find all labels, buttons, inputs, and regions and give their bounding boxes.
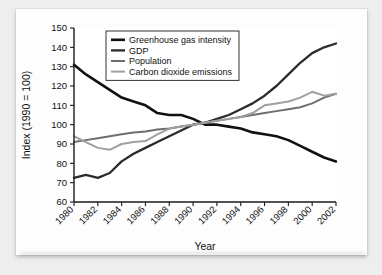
x-tick-label: 2000	[291, 204, 314, 227]
y-tick-label: 120	[51, 80, 67, 91]
y-axis-title: Index (1990 = 100)	[20, 71, 32, 159]
y-tick-label: 90	[56, 138, 67, 149]
y-tick-label: 110	[52, 100, 67, 111]
x-tick-label: 1984	[100, 204, 123, 227]
y-tick-label: 70	[56, 177, 67, 188]
y-axis-ticks: 60708090100110120130140150	[51, 22, 74, 207]
legend-label-3: Carbon dioxide emissions	[129, 67, 233, 77]
x-tick-label: 1996	[243, 204, 266, 227]
x-tick-label: 1988	[148, 204, 171, 227]
x-tick-label: 1990	[172, 204, 195, 227]
chart-legend: Greenhouse gas intensityGDPPopulationCar…	[106, 31, 239, 80]
y-tick-label: 140	[51, 42, 67, 53]
line-chart: 60708090100110120130140150 1980198219841…	[0, 0, 382, 275]
y-tick-label: 80	[56, 158, 67, 169]
x-tick-label: 1994	[219, 204, 242, 227]
x-axis-ticks: 1980198219841986198819901992199419961998…	[53, 202, 338, 226]
x-tick-label: 1998	[267, 204, 290, 227]
legend-label-0: Greenhouse gas intensity	[129, 35, 232, 45]
x-tick-label: 1992	[196, 204, 219, 227]
x-tick-label: 2002	[315, 204, 338, 227]
x-tick-label: 1982	[77, 204, 100, 227]
x-tick-label: 1986	[124, 204, 147, 227]
legend-label-2: Population	[129, 56, 172, 66]
y-tick-label: 130	[51, 61, 67, 72]
legend-label-1: GDP	[129, 46, 149, 56]
screenshot-root: 60708090100110120130140150 1980198219841…	[0, 0, 382, 275]
y-tick-label: 100	[51, 119, 67, 130]
x-axis-title: Year	[194, 240, 216, 252]
y-tick-label: 150	[51, 22, 67, 33]
